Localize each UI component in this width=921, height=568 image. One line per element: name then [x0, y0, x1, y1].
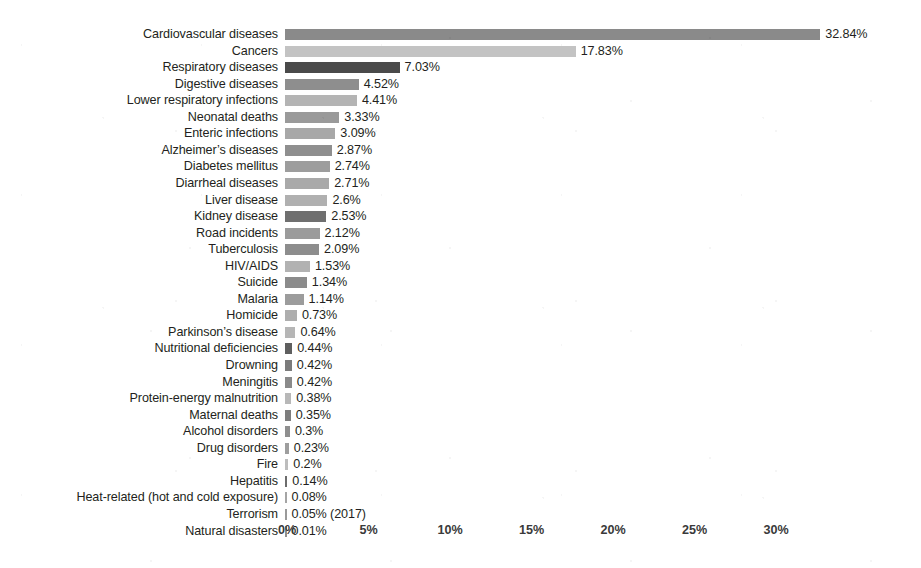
plot-area: Cardiovascular diseases32.84%Cancers17.8… [0, 0, 921, 520]
category-label: Nutritional deficiencies [0, 341, 278, 356]
x-tick-label: 5% [359, 522, 377, 538]
category-label: Drowning [0, 358, 278, 373]
bar-row: Drug disorders0.23% [0, 441, 921, 457]
bar-row: Hepatitis0.14% [0, 474, 921, 490]
bar-row: Road incidents2.12% [0, 226, 921, 242]
value-label: 2.74% [335, 159, 370, 174]
category-label: Hepatitis [0, 474, 278, 489]
bar [285, 228, 320, 239]
x-axis: 0%5%10%15%20%25%30% [0, 522, 921, 546]
category-label: Diarrheal diseases [0, 176, 278, 191]
bar [285, 509, 287, 520]
category-label: Neonatal deaths [0, 110, 278, 125]
category-label: Terrorism [0, 507, 278, 522]
x-tick-label: 15% [519, 522, 544, 538]
bar-row: Liver disease2.6% [0, 193, 921, 209]
bar-row: Diarrheal diseases2.71% [0, 176, 921, 192]
category-label: Homicide [0, 308, 278, 323]
value-label: 2.6% [332, 193, 360, 208]
category-label: Cardiovascular diseases [0, 27, 278, 42]
bar [285, 459, 288, 470]
bar-row: Drowning0.42% [0, 358, 921, 374]
bar [285, 211, 326, 222]
value-label: 0.35% [296, 408, 331, 423]
value-label: 32.84% [825, 27, 867, 42]
category-label: Fire [0, 457, 278, 472]
category-label: Respiratory diseases [0, 60, 278, 75]
value-label: 0.38% [296, 391, 331, 406]
bar [285, 178, 329, 189]
value-label: 0.42% [297, 358, 332, 373]
bar [285, 443, 289, 454]
bar-row: Parkinson’s disease0.64% [0, 325, 921, 341]
bar [285, 62, 400, 73]
bar-row: Kidney disease2.53% [0, 209, 921, 225]
x-tick-label: 20% [600, 522, 625, 538]
value-label: 2.53% [331, 209, 366, 224]
value-label: 2.87% [337, 143, 372, 158]
bar [285, 46, 576, 57]
value-label: 0.44% [297, 341, 332, 356]
category-label: Digestive diseases [0, 77, 278, 92]
category-label: HIV/AIDS [0, 259, 278, 274]
x-tick-label: 30% [763, 522, 788, 538]
value-label: 2.12% [325, 226, 360, 241]
category-label: Alzheimer’s diseases [0, 143, 278, 158]
value-label: 7.03% [405, 60, 440, 75]
bar-row: Suicide1.34% [0, 275, 921, 291]
value-label: 1.34% [312, 275, 347, 290]
bar [285, 161, 330, 172]
bar-row: HIV/AIDS1.53% [0, 259, 921, 275]
bar-row: Meningitis0.42% [0, 375, 921, 391]
category-label: Heat-related (hot and cold exposure) [0, 490, 278, 505]
category-label: Maternal deaths [0, 408, 278, 423]
bar-row: Enteric infections3.09% [0, 126, 921, 142]
bar [285, 95, 357, 106]
value-label: 0.64% [300, 325, 335, 340]
bar [285, 112, 339, 123]
value-label: 0.73% [302, 308, 337, 323]
category-label: Alcohol disorders [0, 424, 278, 439]
value-label: 1.14% [309, 292, 344, 307]
bar-row: Homicide0.73% [0, 308, 921, 324]
value-label: 3.09% [340, 126, 375, 141]
bar [285, 244, 319, 255]
bar [285, 410, 291, 421]
bar-row: Nutritional deficiencies0.44% [0, 341, 921, 357]
category-label: Enteric infections [0, 126, 278, 141]
value-label: 0.14% [292, 474, 327, 489]
category-label: Cancers [0, 44, 278, 59]
value-label: 2.09% [324, 242, 359, 257]
bar [285, 277, 307, 288]
value-label: 4.41% [362, 93, 397, 108]
bar [285, 377, 292, 388]
category-label: Liver disease [0, 193, 278, 208]
bar-row: Cardiovascular diseases32.84% [0, 27, 921, 43]
bar [285, 393, 291, 404]
x-tick-label: 0% [278, 522, 296, 538]
category-label: Protein-energy malnutrition [0, 391, 278, 406]
bar [285, 343, 292, 354]
value-label: 0.23% [294, 441, 329, 456]
bar [285, 195, 327, 206]
value-label: 0.2% [293, 457, 321, 472]
bar [285, 327, 295, 338]
bar-row: Lower respiratory infections4.41% [0, 93, 921, 109]
category-label: Meningitis [0, 375, 278, 390]
bar [285, 145, 332, 156]
value-label: 0.3% [295, 424, 323, 439]
bar-row: Heat-related (hot and cold exposure)0.08… [0, 490, 921, 506]
category-label: Road incidents [0, 226, 278, 241]
bar [285, 360, 292, 371]
bar [285, 79, 359, 90]
bar-row: Alzheimer’s diseases2.87% [0, 143, 921, 159]
bar-row: Alcohol disorders0.3% [0, 424, 921, 440]
value-label: 2.71% [334, 176, 369, 191]
bar [285, 261, 310, 272]
bar-row: Terrorism0.05% (2017) [0, 507, 921, 523]
value-label: 1.53% [315, 259, 350, 274]
value-label: 4.52% [364, 77, 399, 92]
x-tick-label: 25% [682, 522, 707, 538]
bar-row: Protein-energy malnutrition0.38% [0, 391, 921, 407]
value-label: 0.08% [292, 490, 327, 505]
